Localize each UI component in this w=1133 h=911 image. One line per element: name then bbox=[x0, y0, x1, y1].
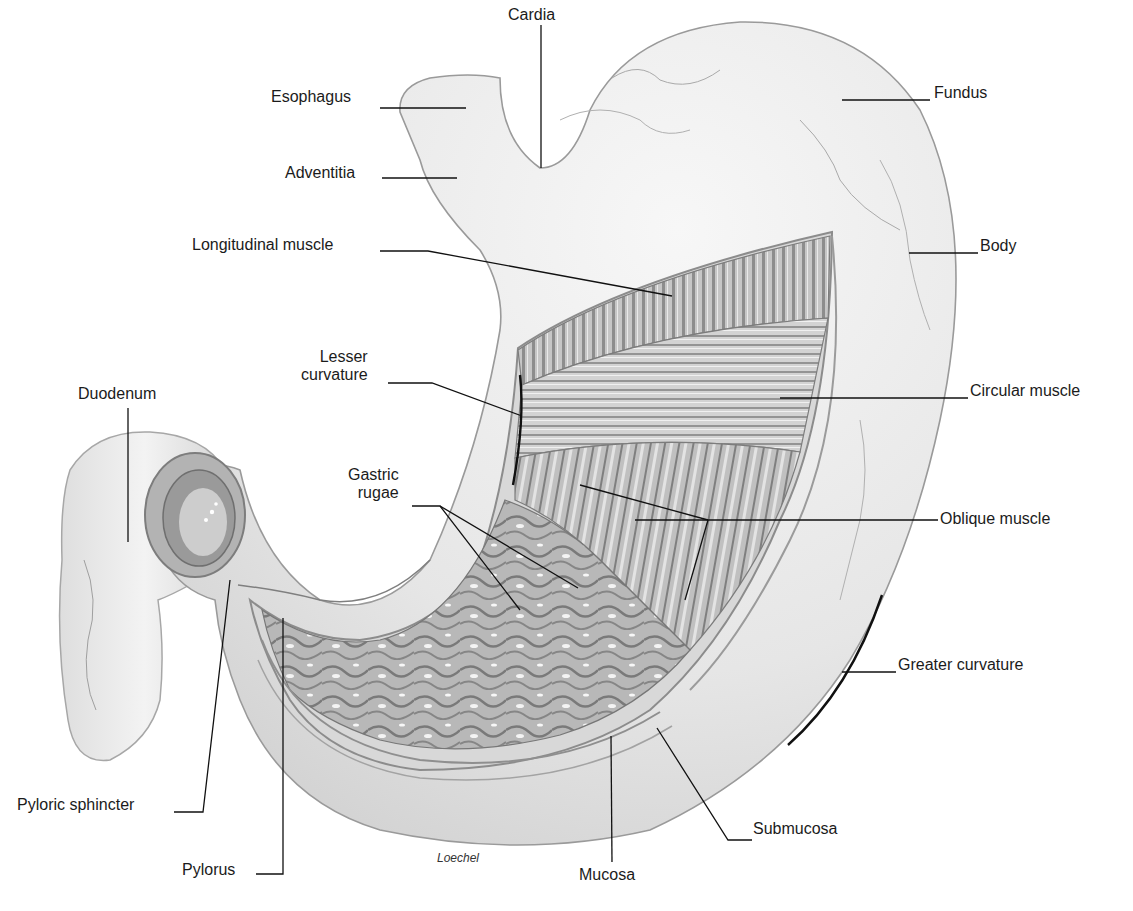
label-longitudinal-muscle: Longitudinal muscle bbox=[192, 236, 333, 254]
label-esophagus: Esophagus bbox=[271, 88, 351, 106]
label-cardia: Cardia bbox=[508, 6, 555, 24]
label-adventitia: Adventitia bbox=[285, 164, 355, 182]
label-longitudinal-muscle-text: Longitudinal muscle bbox=[192, 236, 333, 254]
artist-signature: Loechel bbox=[437, 851, 479, 865]
label-pyloric-sphincter: Pyloric sphincter bbox=[17, 796, 134, 814]
label-gastric-rugae-text: rugae bbox=[348, 484, 399, 502]
label-cardia-text: Cardia bbox=[508, 6, 555, 24]
label-oblique-muscle: Oblique muscle bbox=[940, 510, 1050, 528]
label-mucosa-text: Mucosa bbox=[579, 866, 635, 884]
stomach-anatomy-figure: CardiaEsophagusAdventitiaFundusBodyLongi… bbox=[0, 0, 1133, 911]
stomach-illustration bbox=[0, 0, 1133, 911]
label-fundus: Fundus bbox=[934, 84, 987, 102]
label-submucosa: Submucosa bbox=[753, 820, 838, 838]
label-gastric-rugae-text: Gastric bbox=[348, 466, 399, 484]
label-submucosa-text: Submucosa bbox=[753, 820, 838, 838]
label-pyloric-sphincter-text: Pyloric sphincter bbox=[17, 796, 134, 814]
label-duodenum-text: Duodenum bbox=[78, 385, 156, 403]
label-lesser-curvature: Lessercurvature bbox=[301, 348, 368, 384]
label-esophagus-text: Esophagus bbox=[271, 88, 351, 106]
label-pylorus-text: Pylorus bbox=[182, 861, 235, 879]
label-mucosa: Mucosa bbox=[579, 866, 635, 884]
label-body-text: Body bbox=[980, 237, 1016, 255]
label-fundus-text: Fundus bbox=[934, 84, 987, 102]
label-adventitia-text: Adventitia bbox=[285, 164, 355, 182]
label-greater-curvature-text: Greater curvature bbox=[898, 656, 1023, 674]
label-gastric-rugae: Gastricrugae bbox=[348, 466, 399, 502]
label-body: Body bbox=[980, 237, 1016, 255]
label-lesser-curvature-text: Lesser bbox=[301, 348, 368, 366]
label-circular-muscle: Circular muscle bbox=[970, 382, 1080, 400]
label-circular-muscle-text: Circular muscle bbox=[970, 382, 1080, 400]
label-duodenum: Duodenum bbox=[78, 385, 156, 403]
label-oblique-muscle-text: Oblique muscle bbox=[940, 510, 1050, 528]
label-greater-curvature: Greater curvature bbox=[898, 656, 1023, 674]
label-pylorus: Pylorus bbox=[182, 861, 235, 879]
label-lesser-curvature-text: curvature bbox=[301, 366, 368, 384]
